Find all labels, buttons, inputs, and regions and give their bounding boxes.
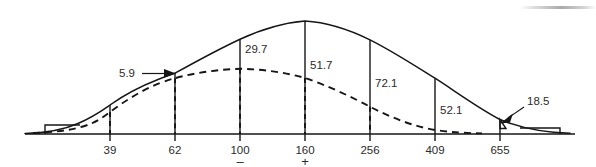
value-label-18-5: 18.5 [527, 95, 549, 107]
axis-label-62: 62 [169, 144, 182, 156]
distribution-chart: 39 62 100 160 256 409 655 – + 5.9 29.7 5… [0, 0, 596, 167]
axis-label-409: 409 [425, 144, 444, 156]
arrow-head-5-9 [164, 69, 176, 78]
sign-marker-plus: + [301, 154, 309, 167]
value-label-5-9: 5.9 [119, 67, 135, 79]
value-label-52-1: 52.1 [440, 104, 462, 116]
axis-label-256: 256 [360, 144, 379, 156]
scan-artifact-line [520, 6, 596, 9]
solid-distribution-curve [25, 21, 570, 134]
sign-marker-minus: – [236, 154, 244, 167]
dashed-distribution-curve [33, 69, 482, 134]
axis-label-39: 39 [104, 144, 117, 156]
value-label-51-7: 51.7 [310, 59, 332, 71]
value-label-72-1: 72.1 [375, 77, 397, 89]
value-label-29-7: 29.7 [245, 43, 267, 55]
chart-canvas: 39 62 100 160 256 409 655 – + 5.9 29.7 5… [0, 0, 596, 167]
axis-label-655: 655 [490, 144, 509, 156]
